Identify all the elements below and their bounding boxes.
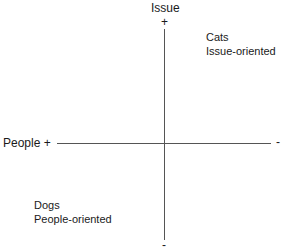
quadrant-top-right-title: Cats — [206, 30, 276, 44]
horizontal-axis-plus-sign: + — [44, 136, 51, 150]
vertical-axis-minus-sign: - — [162, 238, 166, 249]
vertical-axis-line — [164, 29, 165, 240]
horizontal-axis-label: People — [3, 136, 40, 150]
horizontal-axis-line — [57, 143, 271, 144]
quadrant-top-right: Cats Issue-oriented — [206, 30, 276, 58]
horizontal-axis-minus-sign: - — [276, 135, 280, 149]
quadrant-bottom-left-title: Dogs — [34, 198, 112, 212]
quadrant-bottom-left: Dogs People-oriented — [34, 198, 112, 226]
vertical-axis-label: Issue — [151, 1, 180, 15]
quadrant-top-right-subtitle: Issue-oriented — [206, 44, 276, 58]
horizontal-axis-label-group: People + — [3, 136, 51, 150]
quadrant-bottom-left-subtitle: People-oriented — [34, 212, 112, 226]
vertical-axis-plus-sign: + — [161, 15, 168, 29]
